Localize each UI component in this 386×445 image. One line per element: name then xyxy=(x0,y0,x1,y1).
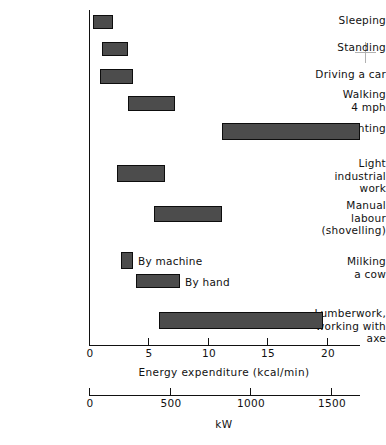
bar-milking-by-hand xyxy=(136,274,180,288)
x-tick-kcal-0 xyxy=(89,338,90,345)
x-tick-kcal-10 xyxy=(208,338,209,345)
x-axis-title-kw: kW xyxy=(215,418,232,430)
bar-milking-by-machine xyxy=(121,252,133,269)
category-label-manual-labour: Manual labour (shovelling) xyxy=(300,199,386,237)
plot-area: Sleeping Standing Driving a car Walking … xyxy=(0,0,386,445)
x-ticklabel-kcal-20: 20 xyxy=(321,347,335,359)
energy-expenditure-chart: Sleeping Standing Driving a car Walking … xyxy=(0,0,386,445)
bar-lumberwork xyxy=(159,312,323,329)
x-axis-line-kw xyxy=(89,395,360,396)
x-ticklabel-kw-500: 500 xyxy=(161,397,182,409)
x-tick-kw-1000 xyxy=(250,388,251,395)
x-ticklabel-kcal-15: 15 xyxy=(261,347,275,359)
y-axis-line xyxy=(89,10,90,345)
category-label-milking-a-cow: Milking a cow xyxy=(300,255,386,280)
x-tick-kcal-15 xyxy=(267,338,268,345)
x-ticklabel-kcal-0: 0 xyxy=(87,347,94,359)
bar-sprinting xyxy=(222,123,360,140)
x-ticklabel-kw-0: 0 xyxy=(87,397,94,409)
bar-annotation-by-machine: By machine xyxy=(138,255,202,267)
x-ticklabel-kw-1500: 1500 xyxy=(318,397,346,409)
bar-sleeping xyxy=(93,15,113,29)
x-ticklabel-kcal-5: 5 xyxy=(146,347,153,359)
bar-walking-4-mph xyxy=(128,96,175,111)
x-tick-kcal-20 xyxy=(327,338,328,345)
category-label-driving-a-car: Driving a car xyxy=(300,68,386,81)
category-label-standing: Standing xyxy=(300,41,386,54)
bar-annotation-by-hand: By hand xyxy=(185,276,230,288)
x-ticklabel-kcal-10: 10 xyxy=(202,347,216,359)
category-label-sleeping: Sleeping xyxy=(300,14,386,27)
x-tick-kw-500 xyxy=(170,388,171,395)
bar-driving-a-car xyxy=(100,69,133,84)
x-axis-title-kcal: Energy expenditure (kcal/min) xyxy=(139,366,310,378)
x-tick-kcal-5 xyxy=(148,338,149,345)
x-ticklabel-kw-1000: 1000 xyxy=(237,397,265,409)
bar-light-industrial-work xyxy=(117,165,165,182)
category-label-light-industrial-work: Light industrial work xyxy=(300,157,386,195)
x-axis-line-kcal xyxy=(89,345,360,346)
bar-manual-labour xyxy=(154,206,222,222)
x-tick-kw-0 xyxy=(89,388,90,395)
category-label-walking-4-mph: Walking 4 mph xyxy=(300,88,386,113)
x-tick-kw-1500 xyxy=(331,388,332,395)
bar-standing xyxy=(102,42,128,56)
